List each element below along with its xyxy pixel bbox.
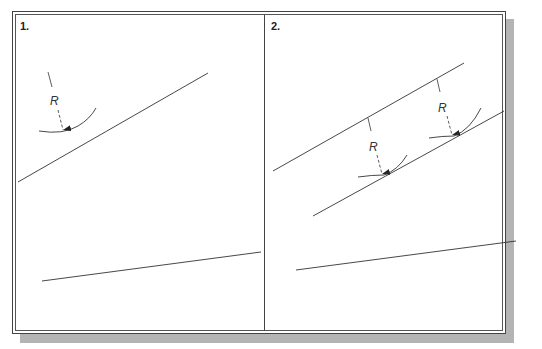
diagram-canvas: R R R bbox=[0, 0, 542, 349]
radius-leader-1-lower bbox=[377, 155, 382, 174]
second-line bbox=[42, 252, 261, 281]
radius-arc-2 bbox=[429, 108, 481, 138]
panel-1: R bbox=[18, 72, 261, 281]
panel-2: R R bbox=[273, 63, 516, 270]
radius-leader-2-upper bbox=[437, 79, 440, 92]
inclined-line bbox=[273, 63, 464, 171]
radius-label-1: R bbox=[369, 140, 378, 154]
radius-arc bbox=[39, 108, 96, 132]
radius-leader-2-lower bbox=[447, 116, 452, 135]
radius-leader-upper bbox=[48, 72, 52, 87]
radius-leader-lower bbox=[58, 110, 63, 130]
radius-arc-1 bbox=[358, 155, 407, 177]
radius-leader-1-upper bbox=[368, 118, 371, 131]
offset-parallel-line bbox=[313, 111, 504, 216]
second-line bbox=[296, 241, 516, 270]
radius-label-2: R bbox=[438, 101, 447, 115]
inclined-line bbox=[18, 73, 208, 182]
radius-label: R bbox=[50, 94, 59, 108]
